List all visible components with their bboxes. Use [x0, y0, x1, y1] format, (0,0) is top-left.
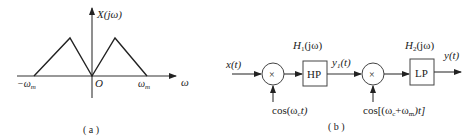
- tick-label-neg-wm: −ωm: [17, 78, 36, 91]
- multiplier-2-symbol: ×: [369, 69, 375, 80]
- block-diagram: x(t) × cos(ωct) HP H1(jω) y1(t) × cos[(ω…: [225, 39, 461, 133]
- carrier-2-label: cos[(ωc+ωm)t]: [363, 104, 425, 118]
- carrier-1-label: cos(ωct): [272, 104, 308, 118]
- intermediate-signal-label: y1(t): [331, 56, 351, 70]
- h2-transfer-label: H2(jω): [404, 39, 434, 53]
- caption-b: ( b ): [328, 121, 345, 133]
- y-axis-label: X(jω): [96, 8, 122, 21]
- spectrum-plot: X(jω) ω O −ωm ωm ( a ): [17, 8, 189, 136]
- output-label: y(t): [443, 49, 460, 62]
- x-axis-label: ω: [181, 76, 189, 88]
- figure-canvas: X(jω) ω O −ωm ωm ( a ) x(t) × cos(ωct) H…: [0, 0, 473, 140]
- caption-a: ( a ): [83, 124, 99, 136]
- lp-filter-label: LP: [415, 67, 428, 79]
- h1-transfer-label: H1(jω): [292, 39, 322, 53]
- hp-filter-label: HP: [307, 68, 321, 80]
- spectrum-curve: [34, 38, 147, 76]
- tick-label-wm: ωm: [138, 78, 150, 91]
- multiplier-1-symbol: ×: [269, 69, 275, 80]
- input-label: x(t): [225, 58, 242, 71]
- origin-label: O: [95, 77, 103, 89]
